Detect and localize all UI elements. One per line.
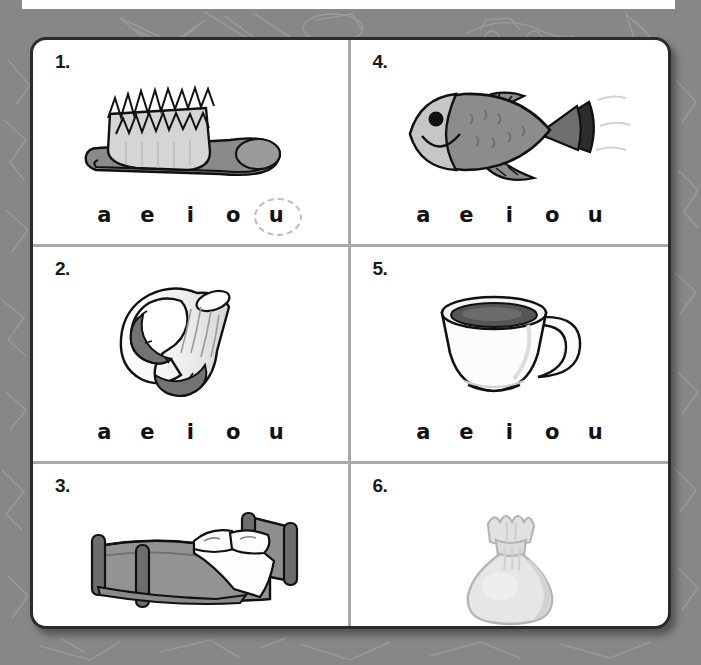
exercise-item-5: 5.: [351, 247, 669, 464]
vowel-choices-2[interactable]: a e i o u: [43, 413, 338, 455]
item-number-3: 3.: [43, 476, 338, 498]
exercise-item-6: 6.: [351, 464, 669, 629]
cup-icon: [424, 281, 594, 411]
vowel-option-u-selected[interactable]: u: [265, 205, 287, 226]
worksheet-card: 1.: [30, 37, 671, 629]
exercise-grid: 1.: [33, 40, 668, 626]
vowel-option-e[interactable]: e: [455, 422, 477, 443]
exercise-item-2: 2.: [33, 247, 351, 464]
worksheet-page: 1.: [0, 0, 701, 665]
vowel-option-i[interactable]: i: [179, 422, 201, 443]
item-number-2: 2.: [43, 259, 338, 281]
vowel-option-e[interactable]: e: [455, 205, 477, 226]
exercise-item-1: 1.: [33, 40, 351, 247]
vowel-option-i[interactable]: i: [498, 205, 520, 226]
vowel-option-a[interactable]: a: [93, 205, 115, 226]
bag-icon: [444, 498, 574, 628]
item-number-5: 5.: [361, 259, 659, 281]
item-picture-4: [361, 74, 659, 196]
item-picture-2: [43, 281, 338, 413]
vowel-option-e[interactable]: e: [136, 422, 158, 443]
vowel-option-a[interactable]: a: [412, 422, 434, 443]
vowel-option-u[interactable]: u: [584, 422, 606, 443]
fish-icon: [384, 74, 634, 194]
vowel-choices-1[interactable]: a e i o u: [43, 196, 338, 238]
vowel-choices-5[interactable]: a e i o u: [361, 413, 659, 455]
bed-icon: [74, 503, 306, 623]
vowel-option-o[interactable]: o: [541, 205, 563, 226]
vowel-option-i[interactable]: i: [498, 422, 520, 443]
item-number-4: 4.: [361, 52, 659, 74]
vowel-option-o[interactable]: o: [222, 205, 244, 226]
item-picture-1: [43, 74, 338, 196]
sock-icon: [105, 281, 275, 411]
vowel-option-i[interactable]: i: [179, 205, 201, 226]
item-number-1: 1.: [43, 52, 338, 74]
exercise-item-3: 3.: [33, 464, 351, 629]
vowel-option-a[interactable]: a: [93, 422, 115, 443]
item-picture-3: [43, 498, 338, 629]
item-number-6: 6.: [361, 476, 659, 498]
hairbrush-icon: [70, 78, 310, 190]
vowel-option-u[interactable]: u: [265, 422, 287, 443]
vowel-option-o[interactable]: o: [222, 422, 244, 443]
item-picture-5: [361, 281, 659, 413]
vowel-option-o[interactable]: o: [541, 422, 563, 443]
top-page-edge-strip: [22, 0, 675, 9]
vowel-choices-4[interactable]: a e i o u: [361, 196, 659, 238]
exercise-item-4: 4.: [351, 40, 669, 247]
vowel-option-u[interactable]: u: [584, 205, 606, 226]
vowel-option-a[interactable]: a: [412, 205, 434, 226]
item-picture-6: [361, 498, 659, 629]
vowel-option-e[interactable]: e: [136, 205, 158, 226]
